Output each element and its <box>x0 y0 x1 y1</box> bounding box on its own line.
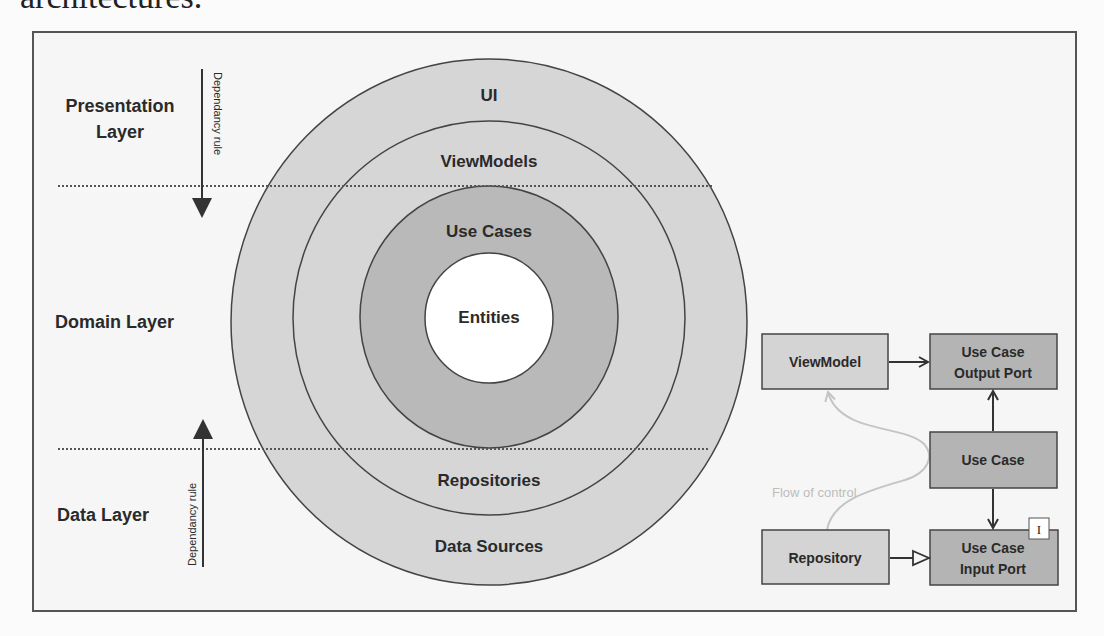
ring-label-viewmodels: ViewModels <box>441 152 538 171</box>
input-port-label-line1: Use Case <box>961 540 1024 556</box>
dependency-rule-label-bottom: Dependancy rule <box>186 483 198 566</box>
interface-badge-label: I <box>1037 522 1041 537</box>
flow-of-control-label: Flow of control <box>772 485 857 500</box>
ring-label-ui: UI <box>481 86 498 105</box>
ring-label-repositories: Repositories <box>438 471 541 490</box>
presentation-layer-label-line2: Layer <box>96 122 144 142</box>
flow-of-control-curve <box>827 392 929 530</box>
clean-architecture-diagram: Dependancy rule Dependancy rule Presenta… <box>0 0 1104 636</box>
repository-label: Repository <box>788 550 861 566</box>
viewmodel-label: ViewModel <box>789 354 861 370</box>
data-layer-label: Data Layer <box>57 505 149 525</box>
output-port-label-line1: Use Case <box>961 344 1024 360</box>
ring-label-entities: Entities <box>458 308 519 327</box>
input-port-label-line2: Input Port <box>960 561 1026 577</box>
output-port-label-line2: Output Port <box>954 365 1032 381</box>
presentation-layer-label-line1: Presentation <box>65 96 174 116</box>
hollow-triangle-arrowhead <box>913 551 929 565</box>
domain-layer-label: Domain Layer <box>55 312 174 332</box>
ring-label-use-cases: Use Cases <box>446 222 532 241</box>
use-case-label: Use Case <box>961 452 1024 468</box>
ring-label-data-sources: Data Sources <box>435 537 544 556</box>
dependency-rule-label-top: Dependancy rule <box>212 72 224 155</box>
